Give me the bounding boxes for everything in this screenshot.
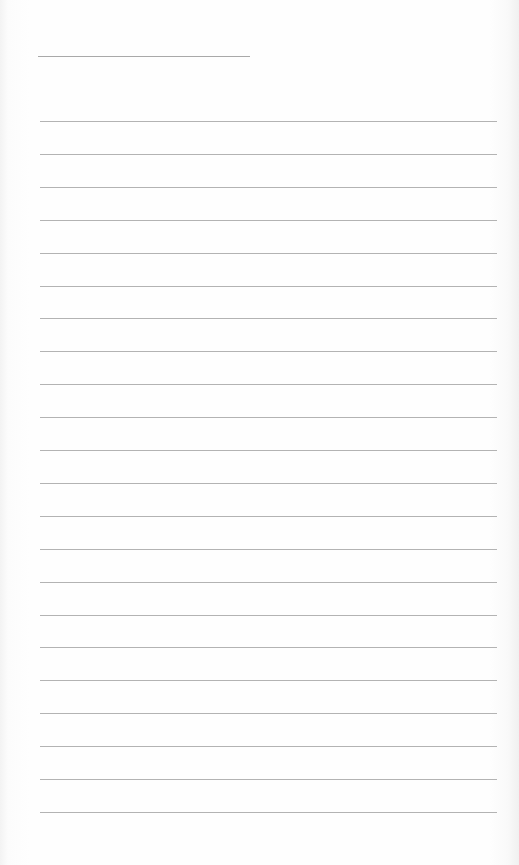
ruled-line bbox=[40, 450, 497, 451]
ruled-line bbox=[40, 549, 497, 550]
ruled-line bbox=[40, 746, 497, 747]
ruled-line bbox=[40, 154, 497, 155]
ruled-line bbox=[40, 516, 497, 517]
ruled-line bbox=[40, 384, 497, 385]
ruled-line bbox=[40, 417, 497, 418]
ruled-line bbox=[40, 812, 497, 813]
ruled-line bbox=[40, 220, 497, 221]
ruled-line bbox=[40, 286, 497, 287]
ruled-line bbox=[40, 351, 497, 352]
ruled-line bbox=[40, 680, 497, 681]
header-line bbox=[38, 56, 250, 57]
ruled-line bbox=[40, 582, 497, 583]
ruled-line bbox=[40, 318, 497, 319]
ruled-paper-sheet bbox=[0, 0, 519, 865]
ruled-line bbox=[40, 713, 497, 714]
ruled-line bbox=[40, 187, 497, 188]
ruled-line bbox=[40, 647, 497, 648]
ruled-line bbox=[40, 121, 497, 122]
ruled-line bbox=[40, 483, 497, 484]
ruled-line bbox=[40, 779, 497, 780]
ruled-line bbox=[40, 615, 497, 616]
ruled-line bbox=[40, 253, 497, 254]
